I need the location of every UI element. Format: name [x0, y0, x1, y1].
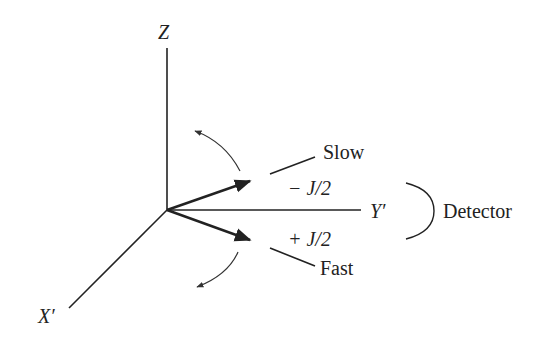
- rotation-arrow-upper: [195, 131, 240, 171]
- fast-label: Fast: [320, 258, 353, 278]
- slow-leader-line: [270, 157, 315, 174]
- minus-j-half-label: − J/2: [288, 178, 331, 198]
- plus-j-half-label: + J/2: [288, 229, 331, 249]
- z-axis-label: Z: [158, 22, 169, 42]
- detector-bracket: [406, 183, 434, 239]
- x-axis-label: X′: [38, 306, 55, 326]
- slow-vector-arrow: [167, 181, 250, 210]
- y-axis-label: Y′: [370, 201, 386, 221]
- fast-vector-arrow: [167, 210, 250, 240]
- rotation-arrow-lower: [197, 252, 238, 287]
- diagram-canvas: [0, 0, 559, 347]
- x-axis: [69, 210, 167, 308]
- detector-label: Detector: [443, 201, 512, 221]
- fast-leader-line: [270, 248, 315, 266]
- slow-label: Slow: [323, 142, 364, 162]
